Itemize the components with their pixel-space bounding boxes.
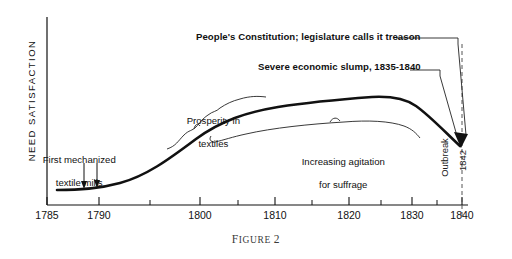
annotation-suffrage-line1: Increasing agitation (302, 156, 385, 167)
figure-caption: FIGURE 2 (0, 233, 512, 245)
annotation-suffrage-line2: for suffrage (319, 179, 367, 190)
x-tick-label-1810: 1810 (253, 209, 297, 221)
annotation-outbreak: Outbreak (439, 127, 450, 189)
annotation-mills-line1: First mechanized (43, 154, 116, 165)
x-tick-label-1820: 1820 (327, 209, 371, 221)
x-tick-label-1800: 1800 (178, 209, 222, 221)
figure-root: NEED SATISFACTION 1785 1790 1800 1810 18… (0, 0, 512, 259)
annotation-first-mechanized-mills: First mechanized textile mills (32, 143, 116, 200)
suffrage-brace (215, 121, 420, 142)
annotation-mills-line2: textile mills (56, 177, 103, 188)
annotation-event-year: 1842 (457, 133, 468, 189)
annotation-prosperity-line2: textiles (198, 138, 228, 149)
x-tick-label-1785: 1785 (25, 209, 69, 221)
annotation-peoples-constitution: People's Constitution; legislature calls… (196, 31, 420, 42)
need-satisfaction-curve (57, 97, 460, 190)
annotation-economic-slump: Severe economic slump, 1835-1840 (258, 61, 421, 72)
annotation-increasing-agitation: Increasing agitation for suffrage (291, 145, 385, 202)
caption-word: IGURE (239, 235, 271, 245)
caption-initial: F (232, 233, 239, 245)
annotation-prosperity-textiles: Prosperity in textiles (176, 104, 240, 161)
caption-number: 2 (274, 233, 280, 245)
annotation-prosperity-line1: Prosperity in (187, 115, 240, 126)
suffrage-brace-tip (330, 118, 340, 122)
x-tick-label-1830: 1830 (390, 209, 434, 221)
x-tick-label-1790: 1790 (77, 209, 121, 221)
x-tick-label-1840: 1840 (440, 209, 484, 221)
